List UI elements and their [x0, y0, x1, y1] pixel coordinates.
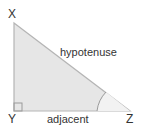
vertex-label-y: Y — [8, 112, 16, 126]
vertex-label-z: Z — [126, 112, 133, 126]
adjacent-label: adjacent — [47, 113, 89, 125]
vertex-label-x: X — [8, 7, 16, 21]
hypotenuse-label: hypotenuse — [60, 46, 117, 58]
triangle-diagram: X Y Z hypotenuse adjacent — [0, 0, 143, 132]
